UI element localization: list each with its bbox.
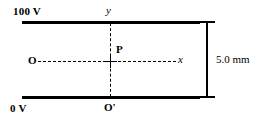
origin-label: O (28, 55, 37, 66)
point-p-cross-vertical (110, 55, 111, 68)
dimension-cap-top (199, 21, 215, 23)
origin-prime-label: O' (104, 102, 116, 113)
point-p-label: P (116, 44, 123, 55)
dimension-cap-bottom (199, 96, 215, 98)
top-plate (22, 21, 200, 24)
top-plate-voltage-label: 100 V (13, 6, 41, 17)
plate-separation-label: 5.0 mm (216, 54, 250, 65)
x-axis-label: x (178, 54, 183, 65)
capacitor-diagram: 100 V 0 V y x O P O' 5.0 mm (0, 0, 270, 124)
bottom-plate-voltage-label: 0 V (10, 103, 27, 114)
y-axis-label: y (106, 5, 111, 16)
dimension-line (206, 21, 208, 98)
bottom-plate (22, 96, 200, 99)
